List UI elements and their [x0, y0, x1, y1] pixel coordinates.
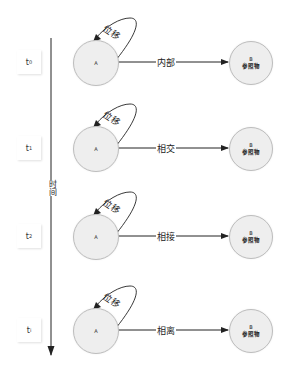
- time-label-ti: ti: [17, 318, 41, 342]
- node-a: A: [73, 126, 119, 172]
- time-label-subscript: 1: [29, 145, 32, 151]
- node-a-label: A: [94, 328, 97, 334]
- node-a: A: [73, 214, 119, 260]
- node-b-reference: B 参照物: [229, 127, 273, 171]
- time-label-subscript: i: [30, 327, 31, 333]
- time-label-t2: t2: [17, 224, 41, 248]
- node-a: A: [73, 308, 119, 354]
- node-b-reference: B 参照物: [229, 309, 273, 353]
- node-b-reference: B 参照物: [229, 41, 273, 85]
- node-b-name: B: [249, 142, 252, 149]
- node-b-caption: 参照物: [242, 237, 260, 244]
- relation-label: 相接: [156, 230, 176, 243]
- node-b-name: B: [249, 230, 252, 237]
- node-b-caption: 参照物: [242, 63, 260, 70]
- time-axis-label: 时间: [46, 180, 56, 196]
- node-a: A: [73, 40, 119, 86]
- time-label-subscript: 0: [29, 59, 32, 65]
- relation-label: 相交: [156, 142, 176, 155]
- node-a-label: A: [94, 146, 97, 152]
- node-b-name: B: [249, 324, 252, 331]
- time-label-t1: t1: [17, 136, 41, 160]
- time-axis-arrowhead-icon: [48, 346, 55, 356]
- node-b-reference: B 参照物: [229, 215, 273, 259]
- node-b-caption: 参照物: [242, 331, 260, 338]
- time-label-t0: t0: [17, 50, 41, 74]
- relation-label: 内部: [156, 56, 176, 69]
- node-a-label: A: [94, 234, 97, 240]
- node-b-caption: 参照物: [242, 149, 260, 156]
- node-b-name: B: [249, 56, 252, 63]
- relation-label: 相离: [156, 324, 176, 337]
- time-label-subscript: 2: [29, 233, 32, 239]
- node-a-label: A: [94, 60, 97, 66]
